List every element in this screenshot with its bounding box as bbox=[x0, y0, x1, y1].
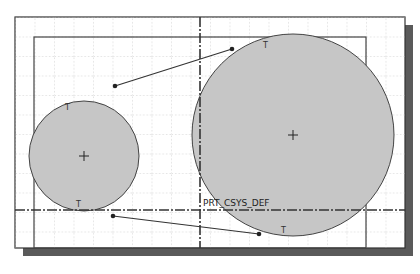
endpoint-handle[interactable] bbox=[257, 232, 262, 237]
sketch-canvas[interactable]: T T T T PRT_CSYS_DEF bbox=[0, 0, 420, 274]
tangent-marker: T bbox=[75, 200, 81, 209]
endpoint-handle[interactable] bbox=[113, 84, 118, 89]
endpoint-handle[interactable] bbox=[111, 214, 116, 219]
tangent-marker: T bbox=[64, 103, 70, 112]
tangent-marker: T bbox=[262, 41, 268, 50]
csys-label: PRT_CSYS_DEF bbox=[203, 198, 270, 208]
endpoint-handle[interactable] bbox=[230, 47, 235, 52]
tangent-marker: T bbox=[280, 226, 286, 235]
